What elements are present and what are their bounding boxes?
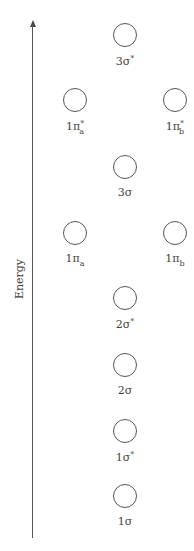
orbital-label-3sigma: 3σ: [118, 187, 133, 198]
orbital-circle-1pi-b-star: [163, 88, 187, 112]
orbital-label-subscript: b: [179, 127, 184, 136]
orbital-label-base: 3σ: [116, 55, 131, 68]
orbital-label-1pi-a: 1πa: [65, 253, 84, 268]
orbital-label-2sigma-star: 2σ*: [116, 318, 135, 330]
orbital-label-3sigma-star: 3σ*: [116, 55, 135, 67]
orbital-label-2sigma: 2σ: [118, 385, 133, 396]
orbital-label-base: 3σ: [118, 186, 133, 199]
orbital-label-1pi-b: 1πb: [165, 253, 184, 268]
orbital-label-1sigma-star: 1σ*: [116, 451, 135, 463]
orbital-circle-1sigma-star: [113, 419, 137, 443]
orbital-label-superscript: *: [130, 450, 134, 459]
orbital-label-subscript: a: [79, 127, 84, 136]
orbital-circle-1pi-a: [63, 221, 87, 245]
orbital-circle-2sigma: [113, 353, 137, 377]
orbital-label-base: 1σ: [116, 451, 131, 464]
energy-axis: [32, 24, 33, 538]
orbital-label-superscript: *: [130, 54, 134, 63]
orbital-circle-1sigma: [113, 484, 137, 508]
orbital-label-base: 2σ: [116, 318, 131, 331]
orbital-label-subscript: b: [180, 259, 185, 268]
orbital-label-base: 1π: [165, 252, 179, 265]
orbital-circle-2sigma-star: [113, 286, 137, 310]
orbital-label-base: 1σ: [118, 515, 133, 528]
orbital-label-base: 1π: [65, 252, 79, 265]
orbital-circle-3sigma-star: [113, 23, 137, 47]
orbital-circle-1pi-b: [163, 221, 187, 245]
orbital-label-1pi-b-star: 1π*b: [166, 120, 184, 136]
energy-axis-label: Energy: [13, 259, 26, 299]
mo-energy-diagram: Energy 3σ*1π*a1π*b3σ1πa1πb2σ*2σ1σ*1σ: [0, 0, 194, 551]
orbital-label-base: 2σ: [118, 384, 133, 397]
orbital-circle-3sigma: [113, 155, 137, 179]
orbital-label-1pi-a-star: 1π*a: [66, 120, 84, 136]
orbital-label-1sigma: 1σ: [118, 516, 133, 527]
orbital-label-subscript: a: [80, 259, 85, 268]
orbital-circle-1pi-a-star: [63, 88, 87, 112]
orbital-label-superscript: *: [130, 317, 134, 326]
